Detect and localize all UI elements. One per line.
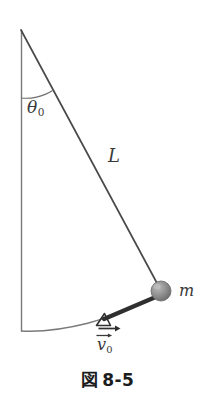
velocity-symbol-group: v0 [97,337,112,353]
caption-symbol: 図 [81,370,100,390]
length-label: L [108,147,120,165]
pendulum-string [21,30,158,285]
angle-symbol: θ [27,97,37,117]
figure-caption: 図8-5 [0,366,215,391]
mass-label: m [179,283,194,299]
angle-label: θ0 [27,99,44,116]
sphere-icon [151,281,171,301]
figure-container: θ0 L m v0 図8-5 [0,0,215,411]
velocity-subscript: 0 [106,344,112,355]
velocity-vector-shaft [104,296,158,319]
caption-number: 8-5 [102,370,134,390]
velocity-symbol: v [97,335,106,354]
angle-subscript: 0 [38,106,45,118]
swing-arc [22,296,156,331]
velocity-label: v0 [94,331,128,357]
